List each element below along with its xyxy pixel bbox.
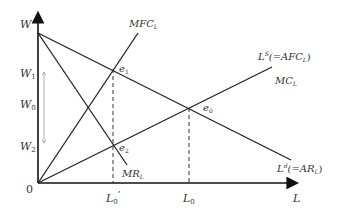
y-axis-label: W: [20, 18, 33, 31]
w0-label: W0: [20, 98, 36, 112]
demand-label: Ld(=ARL): [276, 162, 323, 175]
origin-label: 0: [26, 183, 33, 196]
mc-label: MCL: [274, 75, 297, 87]
supply-label: LS(=AFCL): [257, 50, 311, 63]
w1-label: W1: [20, 67, 36, 81]
x-axis-label: L: [292, 192, 300, 205]
e1-label: e1: [119, 63, 129, 75]
l0prime-label: L0’: [105, 190, 121, 206]
l0-label: L0: [182, 192, 195, 206]
mr-label: MRL: [121, 168, 144, 180]
w2-label: W2: [20, 140, 36, 154]
e0-label: e0: [203, 102, 213, 114]
e2-label: e2: [119, 142, 129, 154]
demand-curve: [38, 33, 291, 160]
monopsony-diagram: W L 0 W1 W0 W2 L0’ L0 MFCL LS(=AFCL) MCL…: [0, 0, 341, 213]
mfc-label: MFCL: [128, 18, 158, 30]
